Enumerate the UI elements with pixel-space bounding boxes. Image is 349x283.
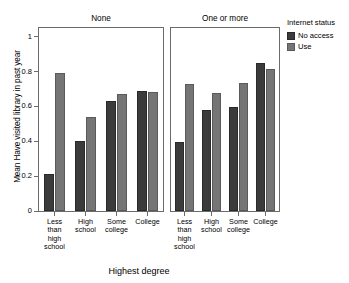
legend-item-no-access[interactable]: No access <box>287 30 349 41</box>
panel-title-none: None <box>38 12 164 25</box>
bar-onemore-2-use <box>239 83 248 211</box>
legend-item-use[interactable]: Use <box>287 41 349 52</box>
y-tick-mark <box>34 106 38 107</box>
y-tick-mark <box>34 71 38 72</box>
x-axis-title: Highest degree <box>0 266 278 276</box>
x-tick-mark <box>54 212 55 216</box>
bar-onemore-0-use <box>185 84 194 211</box>
y-tick-label: 0.4 <box>22 136 32 145</box>
bar-none-1-no-access <box>75 141 86 211</box>
legend-label-no-access: No access <box>298 31 333 41</box>
bar-none-1-use <box>86 117 97 211</box>
y-axis: 00.20.40.60.81 <box>0 27 38 212</box>
plot-panel-none <box>38 27 164 212</box>
plot-panel-one-or-more <box>170 27 280 212</box>
bar-none-3-no-access <box>137 91 148 211</box>
y-tick-mark <box>34 176 38 177</box>
bar-none-0-no-access <box>44 174 55 211</box>
bar-onemore-1-no-access <box>202 110 211 211</box>
plot-area-none <box>39 28 163 211</box>
bar-onemore-3-use <box>266 69 275 211</box>
panel-title-one-or-more: One or more <box>170 12 280 25</box>
y-tick-label: 0 <box>28 206 32 215</box>
legend-swatch-use <box>287 43 295 51</box>
x-tick-mark <box>147 212 148 216</box>
bar-none-0-use <box>55 73 66 211</box>
bar-chart: Mean Have visited library in past year N… <box>0 0 349 283</box>
legend: Internet status No access Use <box>287 18 349 52</box>
bar-onemore-3-no-access <box>256 63 265 211</box>
x-axis-none: Less than high schoolHigh schoolSome col… <box>38 212 164 262</box>
y-tick-mark <box>34 36 38 37</box>
legend-swatch-no-access <box>287 32 295 40</box>
x-tick-mark <box>265 212 266 216</box>
x-tick-mark <box>211 212 212 216</box>
legend-label-use: Use <box>298 42 312 52</box>
x-tick-mark <box>238 212 239 216</box>
bar-onemore-0-no-access <box>175 142 184 211</box>
bar-onemore-2-no-access <box>229 107 238 211</box>
y-tick-label: 0.6 <box>22 101 32 110</box>
y-tick-label: 0.2 <box>22 171 32 180</box>
y-tick-mark <box>34 141 38 142</box>
bar-none-2-no-access <box>106 101 117 211</box>
x-tick-mark <box>116 212 117 216</box>
y-tick-label: 1 <box>28 32 32 41</box>
bar-none-3-use <box>148 92 159 211</box>
bar-none-2-use <box>117 94 128 211</box>
y-tick-label: 0.8 <box>22 67 32 76</box>
x-tick-mark <box>184 212 185 216</box>
x-tick-label: College <box>240 218 292 226</box>
x-tick-mark <box>85 212 86 216</box>
x-axis-one-or-more: Less than high schoolHigh schoolSome col… <box>170 212 280 262</box>
legend-title: Internet status <box>287 18 349 28</box>
bar-onemore-1-use <box>212 93 221 211</box>
plot-area-one-or-more <box>171 28 279 211</box>
